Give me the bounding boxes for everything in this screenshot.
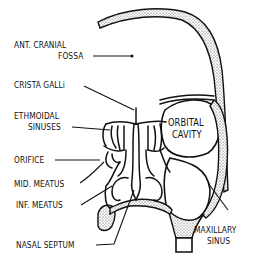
ethmoid-cells-right — [148, 124, 164, 151]
tooth-right — [176, 238, 192, 252]
label-ant-cranial-fossa-line2: FOSSA — [58, 51, 83, 61]
label-inf-meatus: INF. MEATUS — [16, 200, 63, 210]
label-maxillary-sinus-line2: SINUS — [207, 236, 230, 246]
label-mid-meatus: MID. MEATUS — [14, 179, 64, 189]
label-nasal-septum: NASAL SEPTUM — [16, 240, 75, 250]
label-orbital-cavity-line2: CAVITY — [172, 130, 202, 140]
inferior-turbinate-right — [146, 178, 162, 201]
label-orifice: ORIFICE — [14, 155, 44, 165]
label-crista-galli: CRISTA GALLi — [14, 80, 65, 90]
nasal-septum-shape — [132, 124, 136, 200]
label-maxillary-sinus-line1: MAXILLARY — [194, 225, 236, 235]
label-ethmoidal-sinuses-line2: SINUSES — [28, 122, 61, 132]
label-orbital-cavity-line1: ORBITAL — [168, 118, 204, 128]
ethmoid-cells-left — [103, 124, 124, 168]
label-ant-cranial-fossa-line1: ANT. CRANIAL — [14, 40, 66, 50]
middle-turbinate-right — [146, 150, 154, 176]
hard-palate — [110, 199, 172, 214]
inferior-turbinate-left — [112, 178, 128, 201]
label-ethmoidal-sinuses-line1: ETHMOIDAL — [14, 111, 59, 121]
